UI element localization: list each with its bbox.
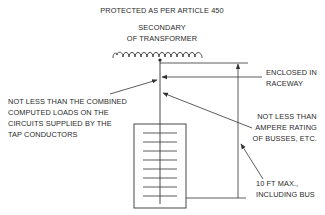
label-secondary-1: SECONDARY: [107, 23, 217, 34]
label-ampere-3: OF BUSSES, ETC.: [253, 134, 317, 145]
arrow-length: [241, 144, 263, 179]
label-secondary-2: OF TRANSFORMER: [107, 34, 217, 45]
label-enclosed-1: ENCLOSED IN: [266, 68, 317, 79]
label-combined-2: COMPUTED LOADS ON THE: [8, 108, 109, 119]
diagram-title: PROTECTED AS PER ARTICLE 450: [70, 6, 254, 17]
label-combined-3: CIRCUITS SUPPLIED BY THE: [8, 119, 112, 130]
label-ampere-1: NOT LESS THAN: [258, 112, 317, 123]
label-combined-1: NOT LESS THAN THE COMBINED: [8, 97, 127, 108]
label-ampere-2: AMPERE RATING: [255, 123, 317, 134]
label-enclosed-2: RACEWAY: [266, 79, 303, 90]
arrow-combined-loads: [110, 80, 157, 94]
label-length-1: 10 FT MAX.,: [256, 179, 298, 190]
label-length-2: INCLUDING BUS: [256, 190, 315, 201]
label-combined-4: TAP CONDUCTORS: [8, 130, 78, 141]
arrow-ampere-rating: [163, 93, 252, 128]
transformer-coil-icon: [113, 52, 202, 58]
